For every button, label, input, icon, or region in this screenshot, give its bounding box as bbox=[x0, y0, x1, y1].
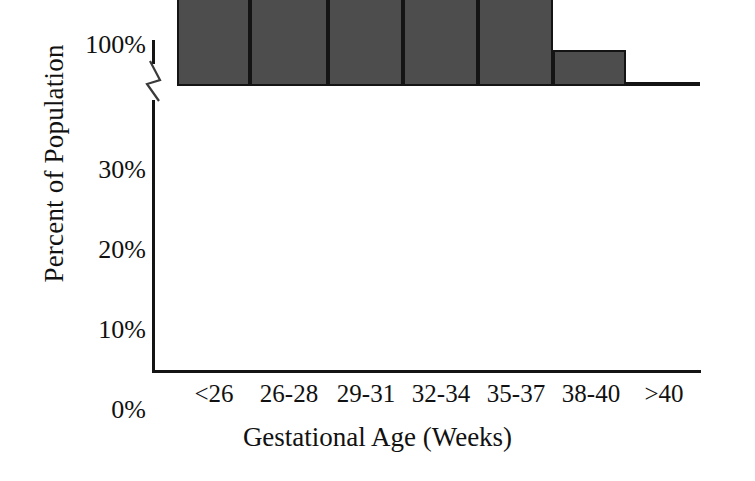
bar-26-28 bbox=[250, 0, 328, 86]
x-tick-label-gt40: >40 bbox=[621, 381, 707, 406]
bar-series bbox=[152, 40, 701, 86]
x-axis-tick-labels: <26 26-28 29-31 32-34 35-37 38-40 >40 bbox=[152, 381, 701, 413]
y-tick-label-0: 0% bbox=[26, 397, 146, 423]
x-axis-title: Gestational Age (Weeks) bbox=[0, 424, 755, 451]
y-axis-title: Percent of Population bbox=[41, 14, 68, 314]
bar-35-37 bbox=[478, 0, 553, 86]
x-tick-label-32-34: 32-34 bbox=[398, 381, 484, 406]
bar-gt40 bbox=[626, 82, 700, 86]
bar-32-34 bbox=[403, 0, 478, 86]
plot-area bbox=[152, 40, 701, 372]
x-tick-label-35-37: 35-37 bbox=[473, 381, 559, 406]
bar-29-31 bbox=[328, 0, 403, 86]
bar-38-40 bbox=[553, 50, 626, 86]
x-tick-label-26-28: 26-28 bbox=[245, 381, 333, 406]
y-axis-line-lower bbox=[152, 100, 155, 372]
histogram-figure: Percent of Population 100% 30% 20% 10% 0… bbox=[0, 0, 755, 481]
x-axis-line bbox=[152, 370, 701, 373]
bar-lt26 bbox=[177, 0, 250, 86]
x-tick-label-29-31: 29-31 bbox=[323, 381, 409, 406]
y-tick-label-10: 10% bbox=[26, 317, 146, 343]
